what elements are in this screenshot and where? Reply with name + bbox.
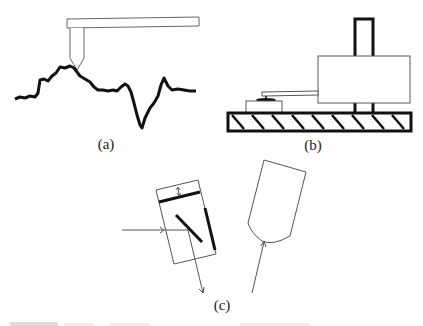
panel-b-label: (b) — [304, 137, 322, 154]
surface-profile — [15, 66, 196, 128]
figure-caption-partial — [10, 322, 310, 326]
contact-pad — [246, 101, 282, 113]
probe-incoming-ray — [252, 242, 264, 293]
panel-c-label: (c) — [214, 297, 231, 314]
tilted-sensor — [122, 180, 216, 293]
panel-a-label: (a) — [98, 136, 115, 153]
rounded-probe — [248, 160, 306, 293]
panel-a: (a) — [15, 17, 199, 153]
sensor-body — [318, 56, 410, 103]
figure-canvas: (a) (b) — [0, 0, 423, 326]
panel-c: (c) — [122, 160, 306, 314]
hatched-base — [228, 113, 411, 131]
panel-b: (b) — [228, 19, 411, 154]
sensor-arm — [262, 91, 318, 96]
stylus-arm — [67, 17, 199, 70]
